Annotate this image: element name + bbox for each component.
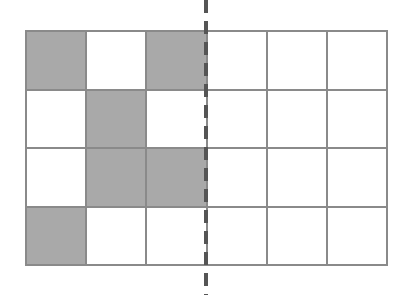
grid-cell-r1c3[interactable]: [147, 32, 207, 91]
grid-cell-r4c1[interactable]: [27, 208, 87, 267]
grid-cell-r4c4[interactable]: [208, 208, 268, 267]
grid-cell-r3c2[interactable]: [87, 149, 147, 208]
grid-cell-r1c1[interactable]: [27, 32, 87, 91]
grid-cell-r4c5[interactable]: [268, 208, 328, 267]
grid-cell-r3c1[interactable]: [27, 149, 87, 208]
grid-cell-r2c4[interactable]: [208, 91, 268, 150]
grid-cell-r4c2[interactable]: [87, 208, 147, 267]
grid-cell-r1c2[interactable]: [87, 32, 147, 91]
grid-cell-r3c3[interactable]: [147, 149, 207, 208]
grid-cell-r1c4[interactable]: [208, 32, 268, 91]
grid-cell-r3c4[interactable]: [208, 149, 268, 208]
grid-cell-r2c2[interactable]: [87, 91, 147, 150]
grid-cell-r2c1[interactable]: [27, 91, 87, 150]
grid-cell-r2c5[interactable]: [268, 91, 328, 150]
grid-cell-r3c5[interactable]: [268, 149, 328, 208]
grid-cell-r4c3[interactable]: [147, 208, 207, 267]
grid-cell-r2c6[interactable]: [328, 91, 388, 150]
grid-cell-r4c6[interactable]: [328, 208, 388, 267]
line-of-symmetry-dashed: [204, 0, 208, 295]
grid-cell-r2c3[interactable]: [147, 91, 207, 150]
grid-cell-r3c6[interactable]: [328, 149, 388, 208]
grid-cell-r1c5[interactable]: [268, 32, 328, 91]
grid-symmetry-figure: [0, 0, 414, 295]
grid-cell-r1c6[interactable]: [328, 32, 388, 91]
